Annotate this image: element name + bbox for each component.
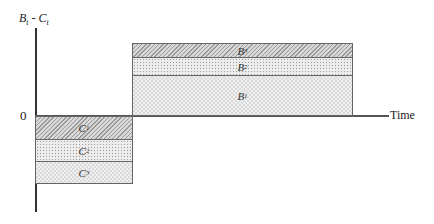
cost-bar-c2: C2 bbox=[35, 139, 133, 162]
benefit-bar-b2: B2 bbox=[132, 57, 353, 76]
y-axis-label: Bt - Ct bbox=[19, 11, 49, 27]
origin-label: 0 bbox=[20, 108, 27, 124]
benefit-bar-b1: B1 bbox=[132, 75, 353, 116]
benefit-bar-b3: B3 bbox=[132, 43, 353, 58]
cost-bar-c1: C1 bbox=[35, 116, 133, 140]
x-axis-label: Time bbox=[390, 108, 415, 123]
cost-bar-c3: C3 bbox=[35, 161, 133, 184]
